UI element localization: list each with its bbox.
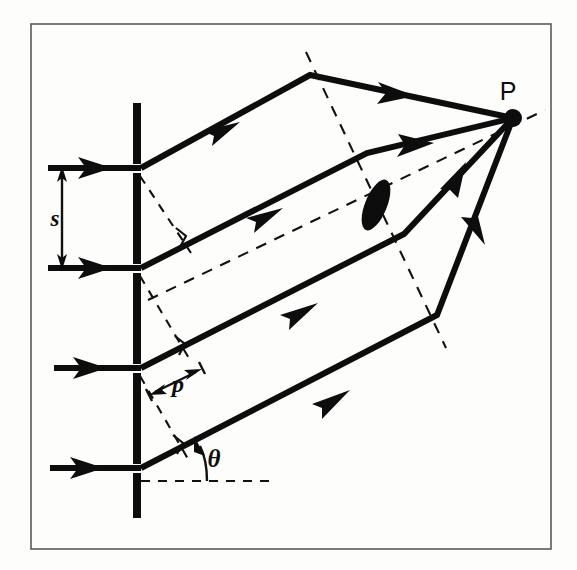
grating-segment-2 [133,173,141,264]
label-slit-separation: s [50,206,60,231]
incident-ray-4 [50,457,141,479]
arrowhead-p-right [184,369,202,380]
label-path-difference: p [170,371,184,397]
diffraction-grating-diagram: s p θ P [0,0,577,570]
arrowhead-diffracted-4a [312,390,350,419]
label-focal-point: P [500,77,517,105]
incident-ray-3 [54,357,141,379]
arrowhead-diffracted-3a [280,303,318,330]
focal-point-dot [504,109,522,127]
diffracted-rays [141,75,513,468]
grating-segment-5 [133,473,141,518]
right-angle-markers [173,228,186,454]
grating-segment-4 [133,373,141,464]
p-tick-right [199,362,205,374]
focal-point-P [504,109,522,127]
diffracted-ray-1 [141,75,513,168]
optical-axis-dashed-line [148,110,545,300]
grating-segment-1 [133,103,141,164]
arrowhead-p-left [149,384,167,395]
figure-root: s p θ P [0,0,577,570]
wavefront-construction-lines [140,176,191,459]
diffracted-ray-3 [141,118,513,368]
label-diffraction-angle: θ [208,445,221,472]
grating-segment-3 [133,273,141,364]
